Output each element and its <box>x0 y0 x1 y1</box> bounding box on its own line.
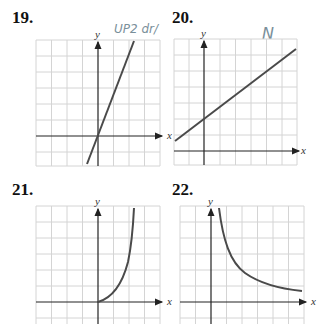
x-axis-label-22: x <box>310 295 316 307</box>
graphs: y x y x y x y x <box>0 0 320 324</box>
y-axis-label-21: y <box>94 195 100 207</box>
graph-22: y x <box>180 195 316 324</box>
y-axis-label-20: y <box>200 27 206 39</box>
y-axis-label-19: y <box>94 28 100 40</box>
x-axis-label-20: x <box>300 144 306 156</box>
curve-19 <box>87 41 134 164</box>
graph-21: y x <box>36 195 172 324</box>
y-axis-label-22: y <box>207 195 213 207</box>
x-axis-label-19: x <box>166 129 172 141</box>
curve-22 <box>219 208 302 291</box>
graph-19: y x <box>36 28 172 166</box>
graph-20: y x <box>174 27 306 165</box>
x-axis-label-21: x <box>166 295 172 307</box>
